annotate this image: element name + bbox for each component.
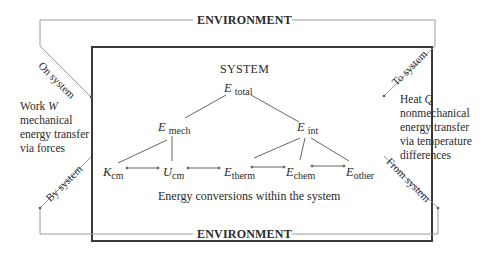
node-e-int: E int: [297, 121, 318, 134]
node-e-mech: E mech: [158, 121, 190, 134]
node-e-therm: Etherm: [224, 166, 255, 179]
line-int-other: [311, 138, 349, 161]
line-total-mech: [185, 95, 226, 118]
heat-line-2: nonmechanical: [400, 106, 472, 120]
system-box: [92, 47, 432, 241]
work-line-3: energy transfer: [20, 127, 89, 141]
line-total-int: [251, 95, 299, 122]
node-k-cm: Kcm: [103, 166, 124, 179]
environment-label-bottom: ENVIRONMENT: [197, 228, 292, 240]
system-title: SYSTEM: [220, 63, 269, 75]
line-mech-kcm: [118, 140, 167, 163]
heat-line-4: via temperature: [400, 134, 472, 148]
heat-line-5: differences: [400, 148, 472, 162]
work-line-4: via forces: [20, 141, 89, 155]
work-line-1: Work W: [20, 99, 89, 113]
line-int-chem: [300, 138, 305, 160]
heat-description: Heat Q nonmechanical energy transfer via…: [400, 92, 472, 162]
node-u-cm: Ucm: [163, 166, 184, 179]
node-e-total: E total: [224, 82, 253, 95]
environment-label-top: ENVIRONMENT: [197, 14, 292, 26]
line-int-therm: [254, 138, 300, 158]
work-description: Work W mechanical energy transfer via fo…: [20, 99, 89, 155]
heat-line-3: energy transfer: [400, 120, 472, 134]
work-line-2: mechanical: [20, 113, 89, 127]
node-e-chem: Echem: [286, 166, 315, 179]
node-e-other: Eother: [346, 166, 374, 179]
system-caption: Energy conversions within the system: [158, 190, 340, 202]
heat-line-1: Heat Q: [400, 92, 472, 106]
